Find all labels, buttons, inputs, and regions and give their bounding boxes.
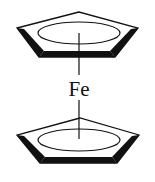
top-cyclopentadienyl-ring <box>17 12 138 57</box>
iron-atom-label: Fe <box>69 77 90 101</box>
ferrocene-diagram: Fe <box>0 0 155 182</box>
bottom-cyclopentadienyl-ring <box>17 118 139 163</box>
